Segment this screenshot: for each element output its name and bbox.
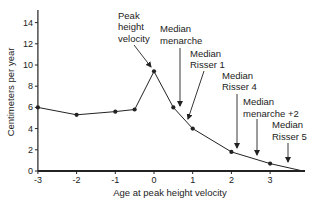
data-point (133, 107, 137, 111)
x-tick-label: -3 (34, 175, 42, 185)
annotation-label: Risser 4 (222, 81, 257, 92)
data-point (152, 69, 156, 73)
annotation-label: Median (222, 70, 253, 81)
height-velocity-chart: 02468101214 -3-2-10123 Centimeters per y… (0, 0, 312, 206)
data-point (268, 161, 272, 165)
y-axis: 02468101214 (23, 10, 38, 176)
data-point (113, 110, 117, 114)
x-tick-label: -1 (111, 175, 119, 185)
annotation-label: Median (190, 48, 221, 59)
y-tick-label: 12 (23, 39, 33, 49)
annotation: MedianRisser 1 (188, 48, 225, 120)
y-axis-title: Centimeters per year (5, 48, 16, 137)
y-tick-label: 0 (28, 166, 33, 176)
annotation: Peakheightvelocity (118, 10, 151, 68)
annotation-label: Risser 5 (272, 131, 307, 142)
x-axis-title: Age at peak height velocity (113, 187, 227, 198)
data-point (75, 113, 79, 117)
y-tick-label: 10 (23, 60, 33, 70)
x-tick-label: 1 (190, 175, 195, 185)
x-axis: -3-2-10123 (34, 171, 305, 185)
y-tick-label: 4 (28, 124, 33, 134)
annotation-label: velocity (118, 33, 150, 44)
annotation-label: Median (243, 96, 274, 107)
annotation-label: Peak (118, 10, 140, 21)
series-layer (36, 69, 303, 171)
annotation-label: height (118, 21, 144, 32)
data-point (191, 127, 195, 131)
annotation-label: menarche (160, 35, 202, 46)
annotation-label: menarche +2 (243, 108, 299, 119)
y-tick-label: 2 (28, 145, 33, 155)
x-tick-label: 2 (229, 175, 234, 185)
annotation: MedianRisser 5 (272, 119, 307, 162)
y-tick-label: 8 (28, 81, 33, 91)
arrow-icon (188, 71, 204, 119)
annotation-label: Risser 1 (190, 59, 225, 70)
x-tick-label: 3 (268, 175, 273, 185)
data-point (229, 150, 233, 154)
series-line (38, 71, 303, 171)
data-point (171, 105, 175, 109)
arrow-icon (134, 45, 151, 67)
y-tick-label: 6 (28, 102, 33, 112)
x-tick-label: 0 (151, 175, 156, 185)
data-point (36, 105, 40, 109)
annotation-label: Median (160, 23, 191, 34)
y-tick-label: 14 (23, 18, 33, 28)
annotation-label: Median (272, 119, 303, 130)
x-tick-label: -2 (73, 175, 81, 185)
